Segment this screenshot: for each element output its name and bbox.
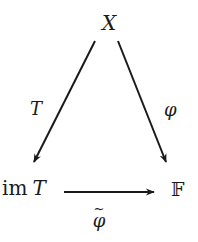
im-T-var: T: [32, 176, 45, 200]
im-operator: im: [2, 176, 27, 200]
arrow-left-T: [34, 41, 95, 162]
node-im-T: imT: [2, 178, 46, 198]
node-X: X: [102, 13, 116, 33]
phi-glyph: φ: [91, 212, 107, 230]
label-phi-tilde: ~ φ: [91, 206, 107, 230]
arrow-right-phi: [118, 41, 166, 162]
label-phi: φ: [164, 101, 177, 119]
node-F: 𝔽: [171, 180, 185, 199]
label-T: T: [30, 100, 42, 118]
